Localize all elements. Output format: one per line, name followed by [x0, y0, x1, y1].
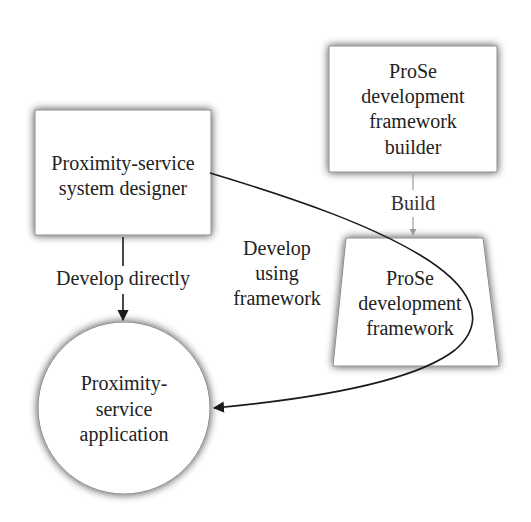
edge-develop-directly: Develop directly — [56, 237, 190, 320]
node-development-framework: ProSe development framework — [333, 238, 499, 366]
develop-directly-label: Develop directly — [56, 267, 190, 290]
node-system-designer: Proximity-service system designer — [35, 110, 211, 235]
build-label: Build — [391, 192, 435, 214]
builder-label-line-2: development — [361, 85, 465, 108]
node-proximity-application: Proximity- service application — [38, 322, 210, 494]
builder-label-line-1: ProSe — [389, 60, 437, 82]
framework-label-line-1: ProSe — [386, 267, 434, 289]
application-label-line-2: service — [96, 398, 153, 420]
framework-label-line-3: framework — [366, 317, 454, 339]
develop-using-framework-label-line-1: Develop — [243, 237, 311, 260]
edge-build: Build — [391, 174, 435, 235]
node-framework-builder: ProSe development framework builder — [329, 46, 497, 172]
develop-using-framework-label-line-3: framework — [233, 287, 321, 309]
develop-using-framework-label-line-2: using — [255, 262, 298, 285]
builder-label-line-4: builder — [385, 136, 442, 158]
builder-label-line-3: framework — [369, 110, 457, 132]
designer-label-line-1: Proximity-service — [51, 152, 194, 175]
framework-label-line-2: development — [358, 292, 462, 315]
diagram-canvas: ProSe development framework builder Prox… — [0, 0, 531, 522]
application-label-line-1: Proximity- — [81, 372, 168, 395]
designer-label-line-2: system designer — [59, 177, 188, 200]
application-label-line-3: application — [80, 423, 169, 446]
